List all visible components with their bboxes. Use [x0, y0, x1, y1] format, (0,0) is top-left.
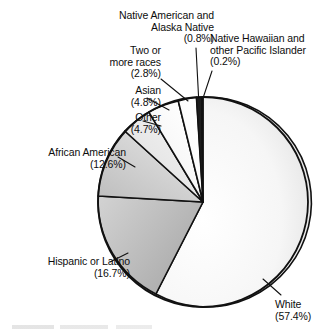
slice-label-two-or-more-races: Two or more races (2.8%) [77, 45, 161, 80]
cropped-caption-artifact [12, 325, 152, 329]
slice-label-african-american: African American (12.6%) [8, 147, 126, 170]
leader-line-native-hawaiian [203, 71, 212, 97]
slice-label-other: Other (4.7%) [65, 112, 161, 135]
slice-label-hispanic-or-latino: Hispanic or Latino (16.7%) [5, 256, 130, 279]
leader-line-native-american [196, 48, 199, 97]
leader-line-two-or-more-races [161, 79, 188, 101]
slice-label-white: White (57.4%) [275, 299, 329, 322]
pie-chart-figure: Native American and Alaska Native (0.8%)… [0, 0, 329, 332]
slice-label-native-hawaiian-and-other-pacific-islander: Native Hawaiian and other Pacific Island… [210, 33, 329, 68]
slice-label-asian: Asian (4.8%) [73, 85, 161, 108]
slice-label-native-american-and-alaska-native: Native American and Alaska Native (0.8%) [96, 10, 214, 45]
